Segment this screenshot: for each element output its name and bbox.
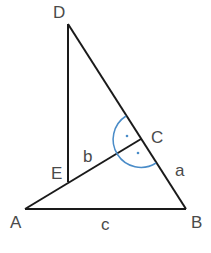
label-point-c: C [151,128,163,147]
label-side-b: b [83,147,92,166]
angle-dot-lower [137,152,140,155]
triangle-diagram: D C E A B b a c [0,0,211,253]
right-angle-arc [113,116,156,167]
label-point-a: A [10,213,22,232]
label-point-d: D [53,3,65,22]
label-point-e: E [51,164,62,183]
label-side-c: c [101,215,110,234]
angle-dot-upper [126,135,129,138]
segment-bd [68,24,186,209]
label-side-a: a [175,161,185,180]
label-point-b: B [191,213,202,232]
